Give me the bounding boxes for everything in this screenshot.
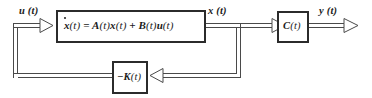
derivative-dot-icon	[64, 17, 66, 19]
feedback-gain-label: −K(t)	[117, 72, 141, 83]
minus-sign: −	[117, 71, 124, 82]
a-arg: (t)	[99, 19, 110, 31]
xdot-letter: x	[64, 19, 70, 31]
state-equation-label: x(t) = A(t)x(t) + B(t)u(t)	[64, 20, 174, 31]
x-arg: (t)	[116, 19, 127, 31]
input-signal-label: u (t)	[19, 6, 38, 17]
k-arg: (t)	[131, 71, 142, 82]
plus-sign: +	[129, 19, 135, 31]
output-signal-label: y (t)	[319, 6, 337, 17]
b-arg: (t)	[146, 19, 157, 31]
c-arg: (t)	[290, 20, 301, 31]
feedback-arrowhead	[150, 69, 163, 83]
x-dot-symbol: x	[64, 20, 70, 31]
output-matrix-label: C(t)	[283, 21, 301, 32]
block-diagram: u (t) x (t) y (t) x(t) = A(t)x(t) + B(t)…	[0, 0, 372, 98]
output-arrowhead	[344, 19, 358, 33]
equals-sign: =	[83, 19, 89, 31]
xdot-arg: (t)	[70, 19, 81, 31]
k-matrix-letter: K	[124, 71, 131, 82]
state-signal-label: x (t)	[208, 6, 227, 17]
input-arrowhead	[40, 19, 53, 33]
diagram-canvas	[0, 0, 372, 98]
b-matrix-letter: B	[139, 19, 146, 31]
u-arg: (t)	[163, 19, 174, 31]
